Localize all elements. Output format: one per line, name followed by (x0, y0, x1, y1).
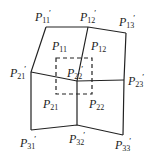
label-p13-prime: P13′ (119, 14, 135, 30)
label-cell-p11: P11 (52, 40, 67, 54)
label-p33-prime: P33′ (115, 137, 131, 152)
label-p22-prime: P22′ (67, 65, 83, 81)
label-p32-prime: P32′ (69, 131, 85, 147)
mesh-diagram: P11′ P12′ P13′ P21′ P22′ P23′ P31′ P32′ … (0, 0, 152, 152)
label-p21-prime: P21′ (10, 65, 26, 81)
label-cell-p21: P21 (43, 98, 58, 112)
label-cell-p12: P12 (91, 40, 106, 54)
label-p31-prime: P31′ (20, 135, 36, 151)
label-cell-p22: P22 (89, 98, 104, 112)
edge-col-3 (123, 33, 126, 135)
edge-col-1 (31, 27, 46, 130)
label-p12-prime: P12′ (80, 9, 96, 25)
label-p23-prime: P23′ (128, 73, 144, 89)
label-p11-prime: P11′ (35, 9, 51, 25)
edge-row-1 (46, 27, 126, 33)
